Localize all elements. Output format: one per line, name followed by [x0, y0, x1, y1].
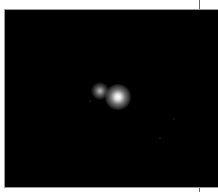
noise-speck	[173, 118, 175, 120]
noise-speck	[159, 137, 161, 139]
noise-speck	[89, 100, 91, 102]
frame-tick-top	[199, 0, 200, 9]
bright-point-source	[105, 84, 131, 110]
frame-tick-bottom	[199, 188, 200, 192]
image-frame	[4, 9, 218, 188]
